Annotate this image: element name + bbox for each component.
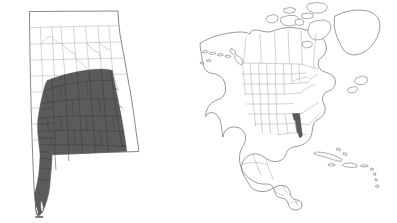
bahamas-1 [337,148,341,151]
dauphin-island [36,216,44,217]
greenland-group [334,10,380,55]
bahamas-2 [343,153,347,156]
newfoundland [355,76,368,85]
southern-islands-group [36,216,44,217]
locator-map-figure [0,0,397,223]
panel-continent-locator [198,0,397,223]
jamaica [328,164,335,166]
alabama-county-map-svg [0,0,198,223]
highlighted-counties-area [35,69,127,216]
highlighted-counties-group [35,69,127,216]
lesser-antilles-1 [371,168,374,171]
melville-island [284,8,296,14]
panel-state-detail [0,0,198,223]
aleutian-island-5 [200,62,204,64]
prince-of-wales-island [295,19,304,26]
lesser-antilles-3 [375,179,378,182]
trinidad [376,185,380,188]
hispaniola [343,163,358,168]
nova-scotia [348,87,359,94]
devon-island [302,13,314,19]
north-america-locator-svg [198,0,397,223]
baffin-island [308,20,331,40]
puerto-rico [361,165,369,167]
banks-island [266,15,278,24]
ellesmere-island [307,3,328,14]
greenland [334,10,380,55]
caribbean-islands-group [314,148,380,188]
lesser-antilles-2 [374,173,377,176]
cuba [314,152,343,162]
